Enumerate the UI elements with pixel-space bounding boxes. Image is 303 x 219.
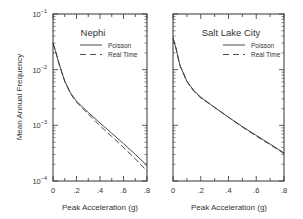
figure: 10−110−210−310−40.2.4.6.8NephiPoissonRea… xyxy=(0,0,303,219)
x-tick-label: 0 xyxy=(51,186,55,195)
plot-frame xyxy=(53,14,147,181)
x-tick-label: .8 xyxy=(281,186,287,195)
y-axis-label: Mean Annual Frequency xyxy=(15,54,24,141)
y-tick-label: 10−4 xyxy=(32,175,47,186)
legend-label: Real Time xyxy=(251,51,281,58)
x-tick-label: .8 xyxy=(144,186,150,195)
x-tick-label: .6 xyxy=(253,186,259,195)
series-poisson xyxy=(53,43,147,165)
x-axis-label-right: Peak Acceleration (g) xyxy=(191,203,267,212)
panel-nephi: 10−110−210−310−40.2.4.6.8NephiPoissonRea… xyxy=(32,8,150,195)
y-tick-label: 10−3 xyxy=(32,119,47,130)
plot-frame xyxy=(173,14,284,181)
panel-salt-lake-city: 0.2.4.6.8Salt Lake CityPoissonReal Time xyxy=(171,14,287,195)
legend-label: Poisson xyxy=(251,42,275,49)
x-tick-label: .2 xyxy=(198,186,204,195)
legend-label: Poisson xyxy=(108,42,132,49)
legend-label: Real Time xyxy=(108,51,138,58)
panel-title: Nephi xyxy=(81,27,106,38)
x-tick-label: .4 xyxy=(97,186,103,195)
y-tick-label: 10−2 xyxy=(32,64,47,75)
panel-title: Salt Lake City xyxy=(202,27,261,38)
x-tick-label: .6 xyxy=(120,186,126,195)
x-axis-label-left: Peak Acceleration (g) xyxy=(62,203,138,212)
x-tick-label: .4 xyxy=(225,186,231,195)
x-tick-label: 0 xyxy=(171,186,175,195)
x-tick-label: .2 xyxy=(73,186,79,195)
y-tick-label: 10−1 xyxy=(32,8,47,19)
